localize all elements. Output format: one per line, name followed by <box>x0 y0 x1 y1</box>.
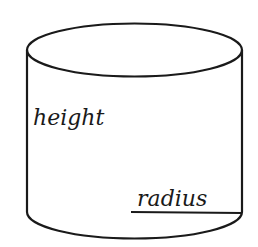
radius-label: radius <box>137 186 207 211</box>
bottom-arc <box>27 212 242 239</box>
radius-line <box>131 212 242 213</box>
top-ellipse <box>27 24 242 77</box>
height-label: height <box>33 105 104 130</box>
cylinder-diagram: height radius <box>0 0 258 247</box>
cylinder-shape <box>27 24 242 239</box>
